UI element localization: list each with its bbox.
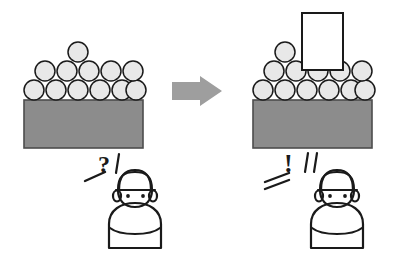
left-emotion-mark: ? — [85, 151, 119, 181]
sphere — [57, 61, 77, 81]
sphere — [79, 61, 99, 81]
transition-arrow — [172, 76, 222, 106]
scene-canvas: ? — [0, 0, 408, 258]
right-panel: ! — [253, 13, 375, 248]
left-base-block-group — [24, 100, 143, 148]
arrow-right-icon — [172, 76, 222, 106]
sphere — [352, 61, 372, 81]
right-emotion-mark: ! — [265, 149, 317, 189]
person-eye-left — [126, 194, 130, 198]
sphere-row-middle — [35, 61, 143, 81]
person-eye-right — [343, 194, 347, 198]
left-person-figure — [109, 170, 161, 248]
sphere — [297, 80, 317, 100]
sphere — [253, 80, 273, 100]
sphere — [275, 42, 295, 62]
person-torso — [311, 203, 363, 248]
left-panel: ? — [24, 42, 161, 248]
sphere — [126, 80, 146, 100]
sphere — [68, 42, 88, 62]
person-eye-left — [328, 194, 332, 198]
person-shoulder-line — [312, 228, 362, 234]
right-person-figure — [311, 170, 363, 248]
illustration-scene: Stacked spheres before and after adding … — [0, 0, 408, 258]
white-box-group — [302, 13, 343, 70]
left-sphere-pile — [24, 42, 146, 100]
sphere-row-top — [68, 42, 88, 62]
person-shoulder-line — [110, 228, 160, 234]
sphere — [68, 80, 88, 100]
sphere — [123, 61, 143, 81]
accent-stroke-vertical-1 — [305, 153, 308, 172]
sphere-row-bottom — [24, 80, 146, 100]
person-torso — [109, 203, 161, 248]
base-block — [253, 100, 372, 148]
base-block — [24, 100, 143, 148]
sphere — [24, 80, 44, 100]
person-eye-right — [141, 194, 145, 198]
sphere-row-bottom — [253, 80, 375, 100]
sphere — [35, 61, 55, 81]
white-box — [302, 13, 343, 70]
accent-stroke-vertical — [116, 154, 119, 173]
sphere — [264, 61, 284, 81]
sphere — [90, 80, 110, 100]
right-base-block-group — [253, 100, 372, 148]
accent-stroke-vertical-2 — [314, 153, 317, 172]
sphere — [46, 80, 66, 100]
sphere — [319, 80, 339, 100]
sphere — [275, 80, 295, 100]
sphere — [355, 80, 375, 100]
sphere-row-top — [275, 42, 295, 62]
sphere — [101, 61, 121, 81]
